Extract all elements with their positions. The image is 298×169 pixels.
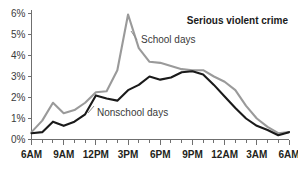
y-axis-tick-label: 4% — [11, 50, 26, 61]
series-label-nonschool-days: Nonschool days — [97, 107, 168, 118]
serious-violent-crime-line-chart: 0%1%2%3%4%5%6% 6AM9AM12PM3PM6PM9PM12AM3A… — [0, 0, 298, 169]
x-axis-tick-label: 6PM — [150, 149, 171, 160]
x-axis-tick-label: 3PM — [118, 149, 139, 160]
y-axis-tick-label: 5% — [11, 29, 26, 40]
x-axis-tick-label: 9PM — [182, 149, 203, 160]
y-axis-tick-label: 1% — [11, 113, 26, 124]
x-axis-tick-label: 9AM — [53, 149, 74, 160]
series-label-school-days: School days — [141, 34, 195, 45]
y-axis-tick-label: 3% — [11, 71, 26, 82]
x-axis-tick-label: 12PM — [83, 149, 109, 160]
chart-container: 0%1%2%3%4%5%6% 6AM9AM12PM3PM6PM9PM12AM3A… — [0, 0, 298, 169]
x-axis-tick-label: 12AM — [211, 149, 238, 160]
x-axis-tick-labels: 6AM9AM12PM3PM6PM9PM12AM3AM6AM — [21, 149, 298, 160]
x-axis-tick-label: 6AM — [21, 149, 42, 160]
y-axis-tick-label: 6% — [11, 8, 26, 19]
y-axis-tick-label: 0% — [11, 134, 26, 145]
chart-title: Serious violent crime — [187, 15, 289, 26]
y-axis-tick-label: 2% — [11, 92, 26, 103]
x-axis-tick-label: 6AM — [278, 149, 298, 160]
x-axis-tick-label: 3AM — [246, 149, 267, 160]
